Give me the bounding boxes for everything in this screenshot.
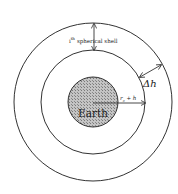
- spherical-shell-diagram: ithspherical shell Δh re + h Earth: [0, 0, 178, 194]
- shell-label: ithspherical shell: [69, 36, 118, 45]
- delta-h-arrow: [140, 65, 161, 77]
- earth-circle: [68, 77, 118, 127]
- radius-label: re + h: [120, 95, 137, 103]
- delta-h-label: Δh: [142, 78, 157, 89]
- earth-label: Earth: [78, 107, 108, 119]
